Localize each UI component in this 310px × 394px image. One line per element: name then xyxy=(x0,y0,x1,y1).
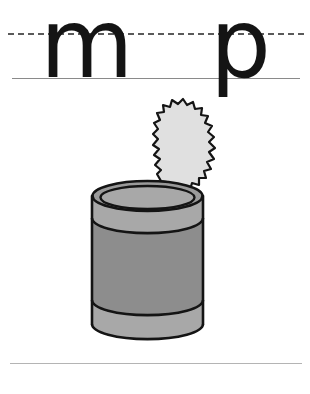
letters-layer: m p xyxy=(0,0,310,120)
can-body xyxy=(92,181,203,339)
letter-p: p xyxy=(210,0,271,92)
letter-m: m xyxy=(40,0,134,92)
worksheet-page: m p xyxy=(0,0,310,394)
